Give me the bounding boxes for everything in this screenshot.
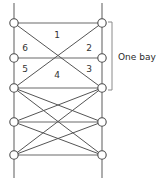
node-left-row2 [10, 54, 18, 62]
member-label-2: 2 [86, 43, 92, 53]
member-label-4: 4 [54, 70, 60, 80]
member-label-5: 5 [22, 64, 28, 74]
truss-diagram: 1 2 3 4 5 6 One bay [0, 0, 157, 181]
node-left-row1 [10, 19, 18, 27]
node-left-row3 [10, 84, 18, 92]
node-left-row4 [10, 118, 18, 126]
truss-diagram-canvas: 1 2 3 4 5 6 One bay [0, 0, 157, 181]
one-bay-label: One bay [118, 52, 156, 62]
member-label-1: 1 [54, 30, 60, 40]
node-right-row2 [98, 54, 106, 62]
member-label-6: 6 [22, 43, 28, 53]
node-right-row3 [98, 84, 106, 92]
node-right-row5 [98, 151, 106, 159]
node-left-row5 [10, 151, 18, 159]
member-label-3: 3 [86, 64, 92, 74]
node-right-row4 [98, 118, 106, 126]
one-bay-bracket: One bay [108, 22, 156, 90]
node-right-row1 [98, 19, 106, 27]
